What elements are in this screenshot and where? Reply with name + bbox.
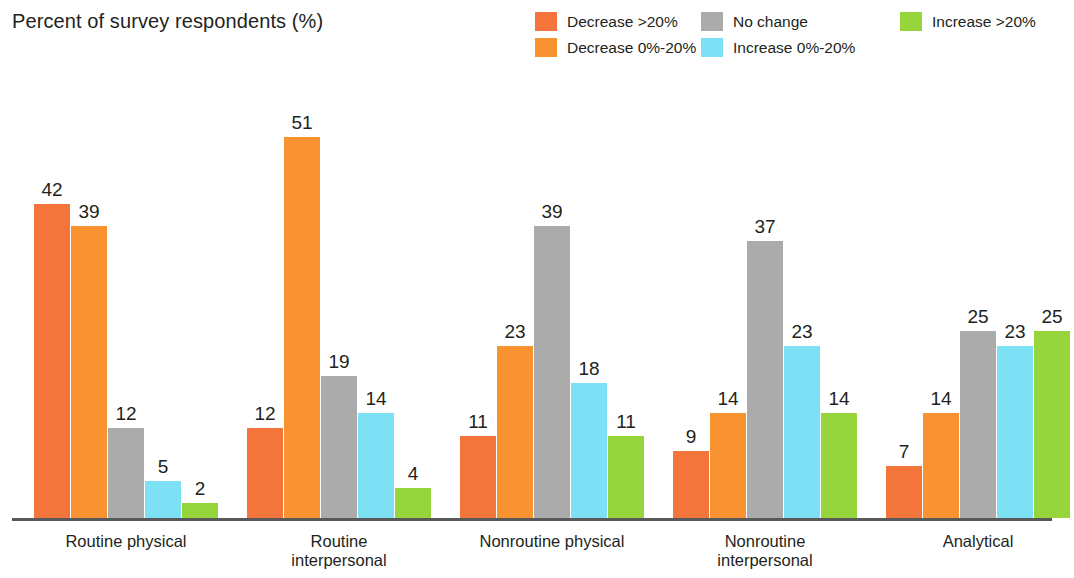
bar — [571, 383, 607, 518]
bar — [460, 436, 496, 518]
bar-value-label: 39 — [526, 202, 578, 221]
x-axis-group-label: Nonroutine physical — [440, 532, 664, 551]
bar-value-label: 11 — [600, 412, 652, 431]
bar — [34, 204, 70, 518]
x-axis-group-label: Routine physical — [14, 532, 238, 551]
bar — [284, 137, 320, 518]
bar-value-label: 5 — [137, 457, 189, 476]
bar-value-label: 18 — [563, 359, 615, 378]
bar — [395, 488, 431, 518]
bar-value-label: 42 — [26, 180, 78, 199]
bar-value-label: 14 — [813, 389, 865, 408]
bar — [608, 436, 644, 518]
bar-value-label: 51 — [276, 113, 328, 132]
bar-value-label: 14 — [350, 389, 402, 408]
bar — [247, 428, 283, 518]
bar — [923, 413, 959, 518]
bar-value-label: 12 — [100, 404, 152, 423]
bar-value-label: 39 — [63, 202, 115, 221]
bar — [1034, 331, 1070, 518]
bar — [673, 451, 709, 518]
bar — [997, 346, 1033, 518]
bar — [784, 346, 820, 518]
x-axis-group-label: Nonroutine interpersonal — [653, 532, 877, 571]
bar — [821, 413, 857, 518]
x-axis-group-label: Analytical — [866, 532, 1074, 551]
bar — [497, 346, 533, 518]
bar — [747, 241, 783, 518]
x-axis-group-label: Routine interpersonal — [227, 532, 451, 571]
bar — [182, 503, 218, 518]
bar-value-label: 37 — [739, 217, 791, 236]
bar — [960, 331, 996, 518]
bar-value-label: 2 — [174, 479, 226, 498]
bar-value-label: 4 — [387, 464, 439, 483]
bar — [886, 466, 922, 518]
bar-value-label: 25 — [1026, 307, 1074, 326]
bar-value-label: 19 — [313, 352, 365, 371]
bar-value-label: 23 — [776, 322, 828, 341]
bar — [710, 413, 746, 518]
bar — [71, 226, 107, 518]
x-axis-line — [12, 518, 1052, 521]
